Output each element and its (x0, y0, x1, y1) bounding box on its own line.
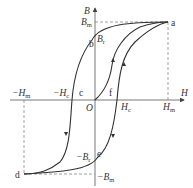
h-max-label: Hm (162, 102, 175, 113)
direction-arrow-up-initial (111, 58, 115, 62)
descending-branch (24, 22, 168, 174)
origin-label: O (86, 103, 93, 113)
b-min-label: −Bm (97, 172, 114, 183)
point-a-label: a (171, 18, 176, 28)
b-r-neg-label: −Br (76, 152, 91, 163)
h-c-label: Hc (120, 102, 131, 113)
point-e-label: e (97, 149, 101, 159)
dashed-guides (24, 22, 168, 174)
ascending-branch (24, 22, 168, 174)
point-f-label: f (109, 88, 113, 98)
direction-arrow-down-ascending (111, 134, 115, 138)
hysteresis-diagram: B H O Bm Br −Br −Bm −Hm −Hc Hc Hm a b c … (0, 0, 193, 188)
h-c-neg-label: −Hc (53, 88, 69, 99)
point-c-label: c (79, 88, 83, 98)
h-min-label: −Hm (12, 88, 30, 99)
h-axis-label: H (180, 88, 189, 98)
direction-arrow-down-descending (64, 132, 68, 136)
initial-magnetization-curve (95, 22, 168, 100)
b-axis-label: B (84, 6, 90, 16)
point-b-label: b (89, 39, 94, 49)
point-d-label: d (15, 170, 20, 180)
b-r-label: Br (97, 34, 106, 45)
b-max-label: Bm (81, 17, 92, 28)
